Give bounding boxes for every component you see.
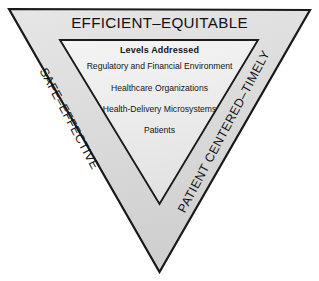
triangle-graphic	[0, 0, 319, 281]
outer-top-edge-label: EFFICIENT–EQUITABLE	[0, 15, 319, 30]
quality-aims-triangle-figure: EFFICIENT–EQUITABLE Levels Addressed Reg…	[0, 0, 319, 281]
level-item-patients: Patients	[0, 126, 319, 135]
level-item-health-delivery-microsystems: Health-Delivery Microsystems	[0, 105, 319, 114]
